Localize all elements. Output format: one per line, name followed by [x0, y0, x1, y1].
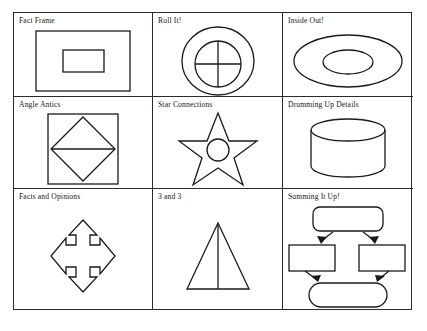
nested-rectangles-shape — [14, 25, 152, 96]
five-point-star-with-center-circle-shape — [153, 109, 282, 188]
triangle-with-center-line-shape — [153, 201, 282, 310]
worksheet-grid: Fact Frame Roll It! Inside Out! — [13, 12, 412, 310]
worksheet-cell-roll-it[interactable]: Roll It! — [153, 13, 283, 97]
worksheet-cell-fact-frame[interactable]: Fact Frame — [14, 13, 153, 97]
worksheet-cell-facts-and-opinions[interactable]: Facts and Opinions — [14, 189, 153, 310]
worksheet-cell-star-connections[interactable]: Star Connections — [153, 97, 283, 189]
worksheet-cell-summing-it-up[interactable]: Summing It Up! — [283, 189, 413, 310]
four-way-arrow-shape — [14, 201, 152, 310]
square-with-inscribed-diamond-shape — [14, 109, 152, 188]
cylinder-shape — [283, 109, 413, 188]
circle-in-circle-crosshair-shape — [153, 25, 282, 96]
flowchart-shape — [283, 201, 413, 310]
nested-ellipses-shape — [283, 25, 413, 96]
worksheet-cell-drumming-up-details[interactable]: Drumming Up Details — [283, 97, 413, 189]
worksheet-cell-3-and-3[interactable]: 3 and 3 — [153, 189, 283, 310]
worksheet-cell-angle-antics[interactable]: Angle Antics — [14, 97, 153, 189]
worksheet-cell-inside-out[interactable]: Inside Out! — [283, 13, 413, 97]
